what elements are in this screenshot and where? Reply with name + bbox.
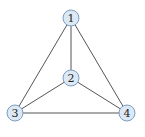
edge-1-3 <box>15 18 71 113</box>
node-1: 1 <box>63 10 79 26</box>
node-4: 4 <box>119 105 135 121</box>
node-label: 3 <box>12 107 19 120</box>
edge-2-4 <box>71 78 127 113</box>
graph-diagram: 1 2 3 4 <box>0 0 145 137</box>
node-label: 1 <box>68 12 75 25</box>
edge-2-3 <box>15 78 71 113</box>
edge-1-4 <box>71 18 127 113</box>
node-3: 3 <box>7 105 23 121</box>
node-label: 4 <box>124 107 131 120</box>
edges <box>15 18 127 113</box>
node-label: 2 <box>68 72 75 85</box>
node-2: 2 <box>63 70 79 86</box>
